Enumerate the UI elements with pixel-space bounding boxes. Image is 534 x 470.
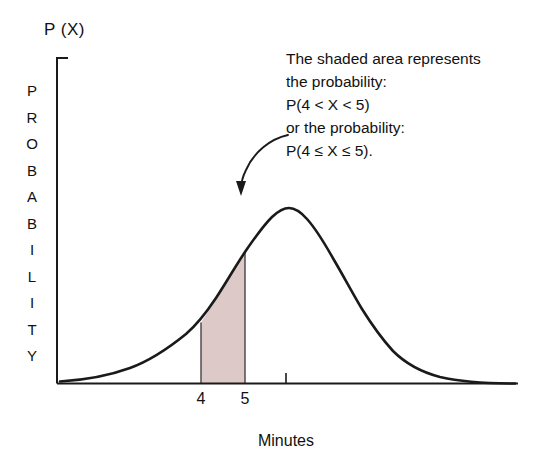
y-axis-label-letter: O: [22, 131, 42, 158]
y-axis-label-letter: Y: [22, 343, 42, 370]
x-axis-tick-label-4: 4: [189, 390, 213, 408]
annotation-arrow: [241, 135, 288, 189]
normal-curve: [60, 208, 515, 384]
y-axis-label: P R O B A B I L I T Y: [22, 78, 42, 370]
y-axis-label-letter: I: [22, 290, 42, 317]
y-axis-top-label: P (X): [44, 20, 85, 40]
y-axis-label-letter: T: [22, 317, 42, 344]
y-axis-label-letter: I: [22, 237, 42, 264]
annotation-text-block: The shaded area represents the probabili…: [286, 47, 481, 162]
y-axis-label-letter: A: [22, 184, 42, 211]
y-axis-label-letter: B: [22, 211, 42, 238]
annotation-line: The shaded area represents: [286, 47, 481, 70]
annotation-line: the probability:: [286, 70, 481, 93]
figure-container: P (X) P R O B A B I L I T Y The shaded a…: [0, 0, 534, 470]
x-axis-label: Minutes: [229, 432, 343, 450]
y-axis-label-letter: R: [22, 105, 42, 132]
y-axis: [57, 58, 68, 384]
y-axis-label-letter: P: [22, 78, 42, 105]
annotation-line: P(4 ≤ X ≤ 5).: [286, 139, 481, 162]
y-axis-label-letter: L: [22, 264, 42, 291]
annotation-line: P(4 < X < 5): [286, 93, 481, 116]
x-axis-tick-label-5: 5: [233, 390, 257, 408]
annotation-arrowhead: [236, 181, 246, 196]
annotation-line: or the probability:: [286, 116, 481, 139]
shaded-area-region: [201, 252, 245, 383]
y-axis-label-letter: B: [22, 158, 42, 185]
